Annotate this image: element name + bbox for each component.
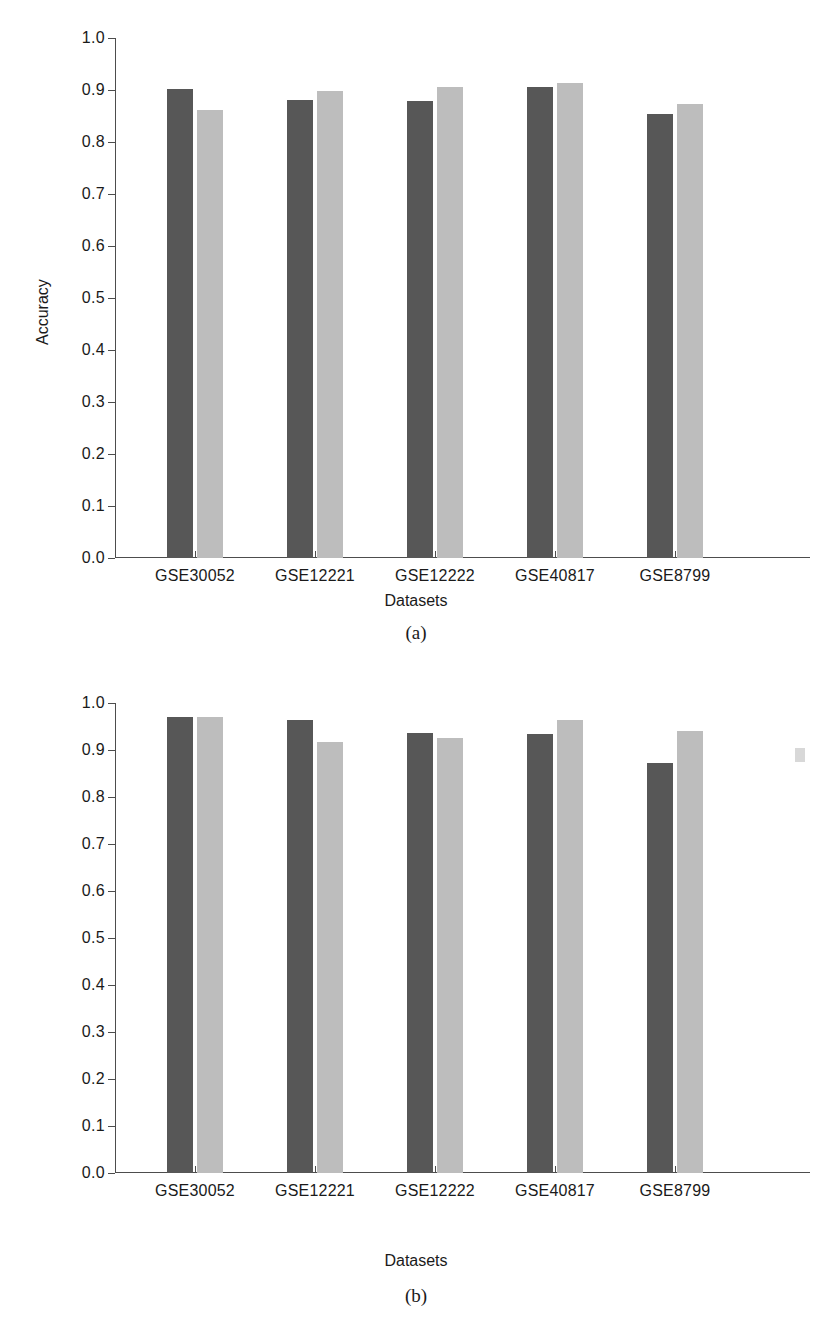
y-tick-label: 0.9 (82, 81, 105, 99)
y-tick-label: 0.5 (82, 929, 105, 947)
x-tick-label: GSE30052 (155, 1182, 235, 1200)
y-tick-mark (108, 750, 115, 751)
y-tick-label: 0.7 (82, 835, 105, 853)
y-tick-label: 0.6 (82, 882, 105, 900)
bar (407, 733, 433, 1173)
chart-panel-a: 0.00.10.20.30.40.50.60.70.80.91.0 GSE300… (0, 0, 832, 660)
y-tick-label: 0.2 (82, 1070, 105, 1088)
bars-layer-a (115, 38, 775, 558)
bar (527, 87, 553, 558)
y-tick-mark (108, 985, 115, 986)
x-tick-label: GSE40817 (515, 1182, 595, 1200)
y-tick-label: 0.3 (82, 393, 105, 411)
y-tick-label: 1.0 (82, 29, 105, 47)
y-tick-label: 0.4 (82, 341, 105, 359)
bar (407, 101, 433, 558)
y-tick-mark (108, 797, 115, 798)
x-tick-label: GSE12221 (275, 567, 355, 585)
y-tick-mark (108, 142, 115, 143)
y-tick-mark (108, 1126, 115, 1127)
y-tick-label: 0.9 (82, 741, 105, 759)
bar (557, 720, 583, 1173)
y-tick-mark (108, 350, 115, 351)
x-tick-mark (195, 551, 196, 558)
x-tick-label: GSE40817 (515, 567, 595, 585)
y-tick-mark (108, 90, 115, 91)
x-tick-mark (315, 551, 316, 558)
bar (167, 89, 193, 558)
x-tick-label: GSE8799 (640, 1182, 711, 1200)
y-tick-label: 0.6 (82, 237, 105, 255)
x-tick-mark (555, 1166, 556, 1173)
y-tick-label: 0.2 (82, 445, 105, 463)
x-tick-mark (195, 1166, 196, 1173)
bar (527, 734, 553, 1173)
x-tick-label: GSE12222 (395, 1182, 475, 1200)
x-tick-mark (555, 551, 556, 558)
x-tick-mark (435, 1166, 436, 1173)
bar (317, 742, 343, 1173)
y-tick-label: 0.0 (82, 1164, 105, 1182)
bar (317, 91, 343, 558)
y-tick-mark (108, 298, 115, 299)
x-tick-label: GSE12222 (395, 567, 475, 585)
y-tick-label: 0.5 (82, 289, 105, 307)
bar (557, 83, 583, 558)
y-axis-title-a: Accuracy (34, 279, 52, 345)
y-tick-mark (108, 844, 115, 845)
x-tick-mark (675, 551, 676, 558)
x-tick-label: GSE8799 (640, 567, 711, 585)
y-tick-mark (108, 1079, 115, 1080)
plot-area-b: 0.00.10.20.30.40.50.60.70.80.91.0 GSE300… (115, 703, 775, 1173)
y-tick-mark (108, 558, 115, 559)
y-tick-label: 0.8 (82, 133, 105, 151)
y-tick-label: 0.1 (82, 1117, 105, 1135)
x-axis-title-b: Datasets (0, 1252, 832, 1270)
figure-page: 0.00.10.20.30.40.50.60.70.80.91.0 GSE300… (0, 0, 832, 1325)
y-tick-mark (108, 506, 115, 507)
y-tick-mark (108, 891, 115, 892)
bar (437, 87, 463, 558)
y-tick-label: 0.3 (82, 1023, 105, 1041)
bar (197, 717, 223, 1173)
y-tick-mark (108, 938, 115, 939)
bar (647, 763, 673, 1173)
x-tick-label: GSE12221 (275, 1182, 355, 1200)
y-tick-mark (108, 703, 115, 704)
bar (677, 104, 703, 558)
x-tick-label: GSE30052 (155, 567, 235, 585)
y-tick-mark (108, 194, 115, 195)
bar (287, 720, 313, 1173)
x-tick-mark (435, 551, 436, 558)
bar (677, 731, 703, 1173)
y-tick-label: 0.7 (82, 185, 105, 203)
x-tick-mark (315, 1166, 316, 1173)
y-tick-mark (108, 402, 115, 403)
panel-caption-b: (b) (0, 1285, 832, 1307)
y-tick-mark (108, 1173, 115, 1174)
chart-panel-b: 0.00.10.20.30.40.50.60.70.80.91.0 GSE300… (0, 655, 832, 1325)
y-tick-label: 0.1 (82, 497, 105, 515)
bars-layer-b (115, 703, 775, 1173)
y-tick-label: 1.0 (82, 694, 105, 712)
bar (647, 114, 673, 558)
bar (197, 110, 223, 558)
x-tick-mark (675, 1166, 676, 1173)
panel-caption-a: (a) (0, 622, 832, 644)
y-tick-label: 0.8 (82, 788, 105, 806)
plot-area-a: 0.00.10.20.30.40.50.60.70.80.91.0 GSE300… (115, 38, 775, 558)
y-tick-mark (108, 1032, 115, 1033)
bar (167, 717, 193, 1173)
bar (287, 100, 313, 558)
x-axis-title-a: Datasets (0, 592, 832, 610)
bar (437, 738, 463, 1173)
y-tick-mark (108, 454, 115, 455)
y-tick-mark (108, 38, 115, 39)
y-tick-mark (108, 246, 115, 247)
y-tick-label: 0.4 (82, 976, 105, 994)
scan-speck (795, 748, 805, 762)
y-tick-label: 0.0 (82, 549, 105, 567)
